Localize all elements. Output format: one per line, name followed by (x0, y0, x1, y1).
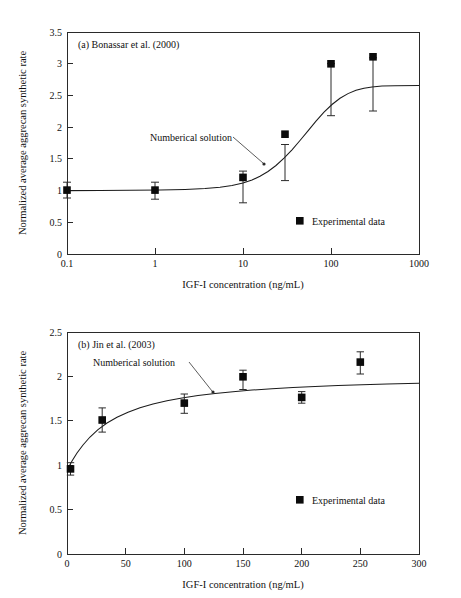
y-tick-label-a-6: 3 (57, 58, 62, 69)
y-tick-label-b-5: 2.5 (50, 327, 63, 338)
x-tick-label-b-4: 200 (294, 558, 309, 569)
x-tick-label-a-4: 1000 (409, 258, 429, 269)
x-axis-b: 0 50 100 150 200 250 300 (65, 548, 427, 569)
legend-label-a: Experimental data (312, 216, 386, 227)
data-markers-a (63, 53, 377, 194)
chart-panel-b: 0 0.5 1 1.5 2 2.5 0 50 100 (0, 306, 461, 598)
x-tick-label-b-5: 250 (353, 558, 368, 569)
annotation-label-a: Numberical solution (150, 132, 232, 143)
x-tick-label-b-0: 0 (65, 558, 70, 569)
legend-marker-a (296, 217, 304, 225)
chart-panel-a: 0 0.5 1 1.5 2 2.5 3 3.5 0.1 (0, 6, 461, 298)
annotation-anchor-a (262, 162, 265, 165)
x-tick-label-b-3: 150 (236, 558, 251, 569)
y-tick-label-b-0: 0 (57, 549, 62, 560)
x-tick-label-a-2: 10 (238, 258, 248, 269)
y-tick-label-a-5: 2.5 (50, 90, 63, 101)
x-axis-a: 0.1 1 10 100 1000 (61, 248, 429, 269)
panel-title-a: (a) Bonassar et al. (2000) (78, 39, 179, 51)
panel-a-svg: 0 0.5 1 1.5 2 2.5 3 3.5 0.1 (0, 6, 461, 298)
x-tick-label-b-1: 50 (121, 558, 131, 569)
y-tick-label-b-3: 1.5 (50, 415, 63, 426)
x-tick-label-b-2: 100 (177, 558, 192, 569)
data-markers-b (67, 358, 364, 472)
x-axis-title-b: IGF-I concentration (ng/mL) (182, 579, 304, 591)
annotation-anchor-b (211, 390, 214, 393)
x-tick-label-b-6: 300 (412, 558, 427, 569)
y-tick-label-b-1: 0.5 (50, 504, 63, 515)
x-tick-label-a-1: 1 (153, 258, 158, 269)
y-axis-title-b: Normalized average aggrecan synthetic ra… (17, 351, 28, 536)
y-tick-label-a-3: 1.5 (50, 153, 63, 164)
y-tick-label-a-4: 2 (57, 122, 62, 133)
error-bars-b (67, 352, 364, 475)
y-tick-label-a-2: 1 (57, 185, 62, 196)
y-tick-label-b-4: 2 (57, 371, 62, 382)
error-bars-a (63, 58, 377, 203)
y-axis-title-a: Normalized average aggrecan synthetic ra… (17, 51, 28, 236)
y-axis-b: 0 0.5 1 1.5 2 2.5 (50, 327, 74, 560)
y-axis-a: 0 0.5 1 1.5 2 2.5 3 3.5 (50, 27, 74, 260)
legend-b: Experimental data (296, 495, 386, 506)
panel-b-svg: 0 0.5 1 1.5 2 2.5 0 50 100 (0, 306, 461, 598)
legend-marker-b (296, 496, 304, 504)
x-tick-label-a-3: 100 (324, 258, 339, 269)
y-tick-label-b-2: 1 (57, 460, 62, 471)
annotation-label-b: Numberical solution (93, 357, 175, 368)
legend-label-b: Experimental data (312, 495, 386, 506)
model-curve-b (68, 383, 419, 468)
y-tick-label-a-1: 0.5 (50, 217, 63, 228)
annotation-leader-b (189, 362, 212, 391)
figure-container: 0 0.5 1 1.5 2 2.5 3 3.5 0.1 (0, 0, 461, 598)
x-tick-label-a-0: 0.1 (61, 258, 74, 269)
panel-title-b: (b) Jin et al. (2003) (78, 339, 155, 351)
x-axis-title-a: IGF-I concentration (ng/mL) (182, 279, 304, 291)
y-tick-label-a-7: 3.5 (50, 27, 63, 38)
annotation-leader-a (233, 137, 263, 163)
legend-a: Experimental data (296, 216, 386, 227)
